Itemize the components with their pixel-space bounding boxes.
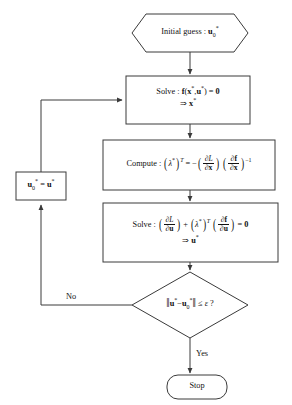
- node-initial-guess-label: Initial guess : u0*: [132, 27, 248, 37]
- node-solve-control-label: Solve : (∂L∂u) + (λ*)T (∂f∂u) = 0 ⇒ u*: [103, 216, 278, 245]
- edge-label-no: No: [56, 292, 86, 302]
- node-convergence-test-label: ‖u*−u0*‖ ≤ ε ?: [140, 299, 240, 309]
- flowchart-diagram: Initial guess : u0* Solve : f(x*,u*) = 0…: [0, 0, 292, 405]
- node-solve-state-label: Solve : f(x*,u*) = 0 ⇒ x*: [126, 87, 250, 108]
- node-update-guess-label: u0* = u*: [16, 180, 66, 190]
- flowchart-svg: [0, 0, 292, 405]
- node-compute-lambda-label: Compute : (λ*)T = −(∂L∂x) (∂f∂x)−1: [103, 155, 275, 173]
- edge-label-yes: Yes: [196, 349, 222, 359]
- node-stop-label: Stop: [167, 381, 227, 391]
